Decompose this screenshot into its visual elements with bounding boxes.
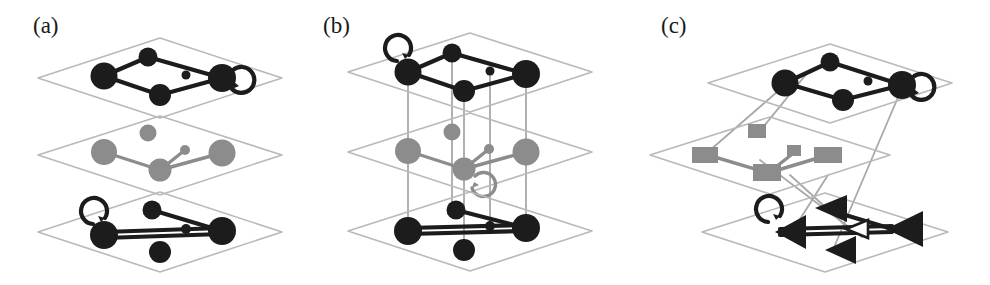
node (394, 217, 422, 245)
node (753, 164, 781, 181)
panel-c-diagram (640, 0, 990, 285)
figure-canvas: (a) (0, 0, 990, 285)
node (484, 144, 494, 154)
node (888, 71, 916, 99)
panel-c: (c) (640, 0, 990, 285)
self-loop-arrowhead (472, 182, 479, 188)
node (395, 138, 421, 164)
node (182, 71, 191, 80)
node (209, 140, 236, 167)
plate-outline (650, 117, 890, 194)
self-loop-edge (756, 196, 782, 222)
layer-c-middle (650, 117, 890, 194)
panel-b: (b) (320, 0, 640, 285)
nodes (775, 195, 923, 264)
node (395, 59, 422, 86)
node (149, 84, 171, 106)
panel-b-diagram (320, 0, 640, 285)
nodes (395, 44, 541, 103)
node (208, 64, 236, 92)
layer-c-bottom (702, 193, 948, 272)
node (512, 60, 540, 88)
nodes (395, 124, 540, 181)
node (453, 158, 476, 181)
node (825, 236, 856, 264)
node (846, 220, 868, 238)
plate-outline (348, 113, 592, 192)
node (815, 195, 847, 222)
node (444, 124, 461, 141)
layer-a-middle (38, 116, 282, 195)
node (143, 201, 162, 220)
node (447, 201, 466, 220)
node (180, 145, 190, 155)
node (692, 147, 718, 163)
intralayer-edges (408, 210, 526, 234)
node (181, 224, 191, 234)
layer-b-bottom (348, 192, 592, 271)
node (90, 221, 118, 249)
node (886, 211, 923, 247)
layer-a-bottom (38, 192, 282, 272)
node (149, 241, 171, 263)
layer-b-top (348, 33, 592, 112)
node (140, 125, 157, 142)
self-loop-edge (385, 35, 411, 61)
node (453, 239, 475, 261)
node (832, 89, 854, 111)
node (821, 53, 840, 72)
layer-b-middle (348, 113, 592, 196)
node (91, 139, 117, 165)
node (485, 221, 495, 231)
node (443, 44, 462, 63)
node (453, 80, 475, 102)
plate-outline (38, 116, 282, 195)
node (748, 124, 766, 138)
node (814, 147, 842, 163)
node (512, 214, 540, 242)
intralayer-edges (104, 210, 222, 238)
node (772, 70, 799, 97)
panel-a-diagram (0, 0, 320, 285)
panel-a: (a) (0, 0, 320, 285)
layer-a-top (38, 38, 282, 118)
node (775, 215, 806, 249)
node (513, 139, 540, 166)
node (208, 217, 236, 245)
node (139, 48, 158, 67)
node (91, 63, 118, 90)
node (787, 145, 801, 156)
node (149, 159, 172, 182)
node (486, 67, 495, 76)
node (864, 77, 873, 86)
layer-c-top (708, 44, 952, 123)
